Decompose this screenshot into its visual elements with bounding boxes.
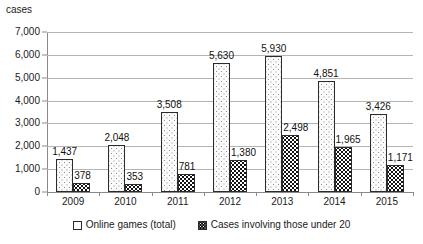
x-axis-tick-label: 2015 [376, 196, 398, 208]
y-axis-tick-label: 3,000 [15, 118, 40, 128]
light-dotted-swatch [73, 221, 82, 230]
legend-item-label: Cases involving those under 20 [211, 219, 351, 231]
bar-group: 5,9302,498 [256, 32, 308, 192]
legend-item-label: Online games (total) [86, 219, 176, 231]
x-axis-tick-label: 2011 [167, 196, 189, 208]
x-axis-tick-mark [99, 192, 100, 196]
y-axis-tick-label: 0 [34, 187, 40, 197]
bar-online-games-total [56, 159, 73, 192]
x-axis-tick-mark [361, 192, 362, 196]
bar-cases-under-20 [73, 183, 90, 192]
x-axis-tick-mark [152, 192, 153, 196]
bar-value-label: 1,171 [388, 152, 413, 163]
y-axis-tick-label: 6,000 [15, 50, 40, 60]
bar-group: 3,508781 [152, 32, 204, 192]
bar-value-label: 2,498 [283, 122, 308, 133]
chart-legend: Online games (total)Cases involving thos… [0, 216, 423, 234]
bar-value-label: 1,965 [336, 134, 361, 145]
bar-online-games-total [108, 145, 125, 192]
bar-value-label: 3,508 [157, 99, 182, 110]
bar-online-games-total [370, 114, 387, 192]
x-axis-tick-label: 2014 [323, 196, 345, 208]
y-axis-unit-label: cases [6, 4, 32, 16]
y-axis-tick-label: 5,000 [15, 73, 40, 83]
bar-cases-under-20 [282, 135, 299, 192]
bar-chart: cases 01,0002,0003,0004,0005,0006,0007,0… [0, 0, 423, 244]
bar-cases-under-20 [387, 165, 404, 192]
bar-cases-under-20 [335, 147, 352, 192]
y-axis-labels: 01,0002,0003,0004,0005,0006,0007,000 [0, 32, 45, 192]
y-axis-tick-label: 7,000 [15, 27, 40, 37]
bar-cases-under-20 [230, 160, 247, 192]
x-axis-tick-mark [256, 192, 257, 196]
bar-online-games-total [161, 112, 178, 192]
bar-online-games-total [265, 56, 282, 192]
legend-item[interactable]: Online games (total) [73, 219, 176, 231]
legend-item[interactable]: Cases involving those under 20 [198, 219, 351, 231]
bar-value-label: 378 [74, 170, 91, 181]
x-axis-baseline [47, 192, 413, 193]
bar-value-label: 2,048 [104, 132, 129, 143]
bar-value-label: 4,851 [314, 68, 339, 79]
x-axis-labels: 2009201020112012201320142015 [47, 196, 413, 212]
bar-cases-under-20 [178, 174, 195, 192]
x-axis-tick-mark [47, 192, 48, 196]
x-axis-tick-mark [308, 192, 309, 196]
x-axis-tick-label: 2013 [271, 196, 293, 208]
bar-value-label: 353 [126, 171, 143, 182]
y-axis-tick-label: 2,000 [15, 141, 40, 151]
y-axis-tick-label: 1,000 [15, 164, 40, 174]
bar-group: 3,4261,171 [361, 32, 413, 192]
bar-group: 5,6301,380 [204, 32, 256, 192]
bar-group: 1,437378 [47, 32, 99, 192]
bar-value-label: 1,437 [52, 146, 77, 157]
bar-groups: 1,4373782,0483533,5087815,6301,3805,9302… [47, 32, 413, 192]
bar-online-games-total [213, 63, 230, 192]
x-axis-tick-label: 2012 [219, 196, 241, 208]
x-axis-tick-label: 2010 [114, 196, 136, 208]
bar-value-label: 1,380 [231, 147, 256, 158]
bar-group: 4,8511,965 [308, 32, 360, 192]
bar-value-label: 5,930 [261, 43, 286, 54]
bar-cases-under-20 [125, 184, 142, 192]
dark-checker-swatch [198, 221, 207, 230]
x-axis-tick-label: 2009 [62, 196, 84, 208]
x-axis-tick-mark [204, 192, 205, 196]
bar-value-label: 781 [179, 161, 196, 172]
y-axis-tick-label: 4,000 [15, 96, 40, 106]
bar-value-label: 5,630 [209, 50, 234, 61]
bar-group: 2,048353 [99, 32, 151, 192]
bar-online-games-total [318, 81, 335, 192]
bar-value-label: 3,426 [366, 101, 391, 112]
x-axis-tick-mark [413, 192, 414, 196]
